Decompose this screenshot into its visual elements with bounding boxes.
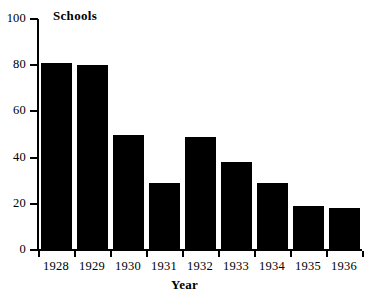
bar bbox=[113, 135, 144, 251]
bar bbox=[293, 206, 324, 250]
y-axis-tick bbox=[30, 157, 38, 159]
y-axis-tick bbox=[30, 18, 38, 20]
y-axis-tick-label: 100 bbox=[0, 12, 26, 25]
plot-area bbox=[38, 19, 362, 250]
y-axis-tick bbox=[30, 203, 38, 205]
x-axis-tick bbox=[146, 251, 148, 257]
x-axis-tick bbox=[218, 251, 220, 257]
x-axis-tick-label: 1929 bbox=[74, 259, 110, 273]
bar bbox=[257, 183, 288, 250]
x-axis-tick-label: 1931 bbox=[146, 259, 182, 273]
x-axis-title: Year bbox=[0, 278, 369, 292]
x-axis-tick bbox=[182, 251, 184, 257]
y-axis-tick bbox=[30, 64, 38, 66]
x-axis-tick-label: 1934 bbox=[254, 259, 290, 273]
y-axis-tick bbox=[30, 110, 38, 112]
x-axis-tick bbox=[362, 251, 364, 257]
bar bbox=[221, 162, 252, 250]
x-axis-tick bbox=[110, 251, 112, 257]
x-axis-tick-label: 1935 bbox=[290, 259, 326, 273]
y-axis-tick-label: 60 bbox=[0, 104, 26, 117]
x-axis-tick bbox=[326, 251, 328, 257]
y-axis-tick-label: 20 bbox=[0, 197, 26, 210]
bar bbox=[41, 63, 72, 250]
bar-chart: Schools 020406080100 1928192919301931193… bbox=[0, 0, 369, 302]
x-axis-tick-label: 1936 bbox=[326, 259, 362, 273]
x-axis-tick-label: 1933 bbox=[218, 259, 254, 273]
x-axis-tick-label: 1928 bbox=[38, 259, 74, 273]
y-axis-tick bbox=[30, 249, 38, 251]
bar bbox=[329, 208, 360, 250]
bar bbox=[149, 183, 180, 250]
y-axis-tick-label: 40 bbox=[0, 151, 26, 164]
y-axis-tick-label: 0 bbox=[0, 243, 26, 256]
x-axis-tick bbox=[254, 251, 256, 257]
x-axis-tick bbox=[290, 251, 292, 257]
bar bbox=[185, 137, 216, 250]
x-axis-tick-label: 1932 bbox=[182, 259, 218, 273]
bar bbox=[77, 65, 108, 250]
x-axis-tick bbox=[74, 251, 76, 257]
x-axis-tick bbox=[38, 251, 40, 257]
x-axis-tick-label: 1930 bbox=[110, 259, 146, 273]
y-axis-tick-label: 80 bbox=[0, 58, 26, 71]
